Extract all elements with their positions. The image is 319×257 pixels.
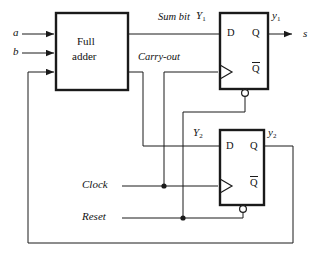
junction-reset xyxy=(180,215,185,220)
state-y1-subscript-text: 1 xyxy=(277,15,281,23)
ff2-reset-bubble xyxy=(240,206,247,213)
ff1-pin-qbar: Q xyxy=(252,62,260,74)
state-y2-subscript-text: 2 xyxy=(273,132,277,140)
junction-clock xyxy=(161,183,166,188)
input-a-label: a xyxy=(13,26,19,38)
ff2-pin-d: D xyxy=(226,140,234,151)
ff1-reset-bubble xyxy=(242,90,249,97)
input-clock-label: Clock xyxy=(82,178,108,190)
diagram-canvas: a b Full adder Sum bit Carry-out Y1 Y2 y… xyxy=(0,0,319,257)
ff2-pin-qbar: Q xyxy=(250,176,258,188)
sum-bit-label: Sum bit xyxy=(158,11,190,22)
ff1-pin-q: Q xyxy=(252,27,260,38)
next-state-y2-label: Y2 xyxy=(193,126,203,138)
state-y1-label: y1 xyxy=(272,9,280,21)
y2-subscript-text: 2 xyxy=(199,132,203,140)
y1-subscript-text: 1 xyxy=(202,15,206,23)
carry-out-label: Carry-out xyxy=(138,51,180,62)
state-y2-label: y2 xyxy=(268,126,276,138)
full-adder-label-line1: Full xyxy=(77,35,95,47)
next-state-y1-label: Y1 xyxy=(196,9,206,21)
input-reset-label: Reset xyxy=(82,210,106,222)
flip-flop-1-box xyxy=(220,13,268,89)
input-b-label: b xyxy=(13,45,19,57)
output-s-label: s xyxy=(303,27,307,39)
full-adder-label-line2: adder xyxy=(72,50,96,62)
ff2-pin-q: Q xyxy=(250,140,258,151)
ff1-pin-d: D xyxy=(227,27,235,38)
